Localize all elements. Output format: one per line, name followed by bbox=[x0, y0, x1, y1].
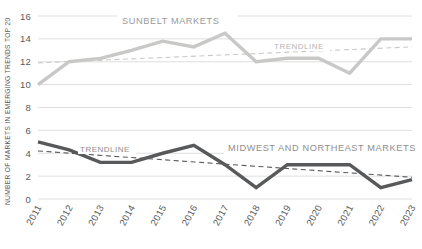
sunbelt-label-group: SUNBELT MARKETS bbox=[118, 14, 238, 27]
trendline-upper-label-group: TRENDLINE bbox=[272, 40, 330, 51]
midwest-label-group: MIDWEST AND NORTHEAST MARKETS bbox=[224, 141, 416, 154]
y-axis-title: NUMBER OF MARKETS IN EMERGING TRENDS TOP… bbox=[4, 18, 11, 206]
chart-container: 0246810121416 20112012201320142015201620… bbox=[0, 0, 422, 249]
y-axis-tick-label: 2 bbox=[26, 171, 31, 182]
line-chart: 0246810121416 20112012201320142015201620… bbox=[0, 0, 422, 249]
y-axis-tick-label: 10 bbox=[20, 79, 31, 90]
y-axis-tick-label: 6 bbox=[26, 125, 31, 136]
y-axis-tick-label: 4 bbox=[26, 148, 31, 159]
sunbelt-series-label: SUNBELT MARKETS bbox=[122, 16, 220, 26]
y-axis-tick-label: 0 bbox=[26, 194, 31, 205]
trendline-lower-label-group: TRENDLINE bbox=[78, 143, 136, 154]
y-axis-tick-label: 14 bbox=[20, 33, 31, 44]
y-axis-tick-label: 16 bbox=[20, 11, 31, 22]
trendline-upper-label: TRENDLINE bbox=[274, 42, 324, 51]
midwest-series-label: MIDWEST AND NORTHEAST MARKETS bbox=[228, 143, 416, 153]
y-axis-tick-label: 8 bbox=[26, 102, 31, 113]
y-axis-tick-label: 12 bbox=[20, 56, 31, 67]
trendline-lower-label: TRENDLINE bbox=[80, 145, 130, 154]
